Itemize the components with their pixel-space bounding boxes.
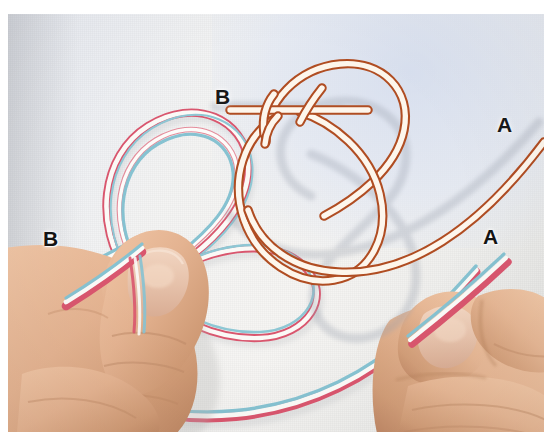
photo-vignette xyxy=(8,14,544,432)
screenshot-root: B A B A xyxy=(0,0,552,443)
instruction-photo: B A B A xyxy=(8,14,544,432)
